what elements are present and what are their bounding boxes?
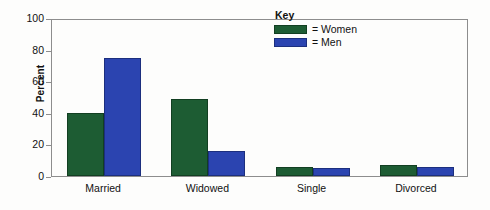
bar-widowed-men xyxy=(208,151,245,176)
bar-chart: Percent 020406080100 MarriedWidowedSingl… xyxy=(0,0,490,210)
bar-single-men xyxy=(313,168,350,176)
bar-single-women xyxy=(276,167,313,176)
y-axis-tick-label: 20 xyxy=(18,139,44,150)
y-axis-tick-label: 0 xyxy=(18,171,44,182)
legend-item-women: = Women xyxy=(274,24,357,35)
y-axis-tick-label: 80 xyxy=(18,45,44,56)
y-axis-tick-label: 100 xyxy=(18,13,44,24)
legend-title: Key xyxy=(275,10,357,21)
legend-swatch-men xyxy=(274,38,307,47)
y-axis-tick-mark xyxy=(46,82,51,83)
y-axis-tick-mark xyxy=(46,145,51,146)
legend: Key = Women = Men xyxy=(269,7,362,54)
bar-widowed-women xyxy=(171,99,208,176)
y-axis-tick-label: 60 xyxy=(18,76,44,87)
bar-married-men xyxy=(104,58,141,177)
y-axis-tick-labels: 020406080100 xyxy=(18,0,44,210)
y-axis-tick-mark xyxy=(46,177,51,178)
bar-married-women xyxy=(67,113,104,176)
bar-divorced-men xyxy=(417,167,454,176)
legend-swatch-women xyxy=(274,25,307,34)
bar-divorced-women xyxy=(380,165,417,176)
y-axis-tick-mark xyxy=(46,114,51,115)
plot-area xyxy=(52,20,467,176)
plot-frame xyxy=(51,19,468,177)
x-axis-category-labels: MarriedWidowedSingleDivorced xyxy=(51,182,468,202)
y-axis-tick-mark xyxy=(46,19,51,20)
legend-label-women: = Women xyxy=(312,24,357,35)
y-axis-tick-label: 40 xyxy=(18,108,44,119)
x-axis-label-widowed: Widowed xyxy=(157,182,257,194)
legend-item-men: = Men xyxy=(274,37,357,48)
y-axis-tick-mark xyxy=(46,51,51,52)
x-axis-label-divorced: Divorced xyxy=(366,182,466,194)
x-axis-label-married: Married xyxy=(53,182,153,194)
x-axis-label-single: Single xyxy=(262,182,362,194)
legend-label-men: = Men xyxy=(312,37,341,48)
